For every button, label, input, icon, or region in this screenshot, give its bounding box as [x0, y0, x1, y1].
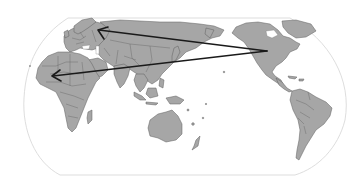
pacific-island	[205, 103, 206, 104]
atlantic-island	[29, 65, 30, 66]
hawaii-island	[223, 71, 225, 73]
pacific-island	[187, 109, 189, 111]
pacific-island	[202, 117, 204, 119]
philippines	[159, 78, 164, 88]
pacific-island	[192, 123, 195, 126]
caspian-sea	[96, 46, 99, 54]
caribbean-hispaniola	[299, 79, 304, 81]
world-map	[0, 0, 359, 182]
